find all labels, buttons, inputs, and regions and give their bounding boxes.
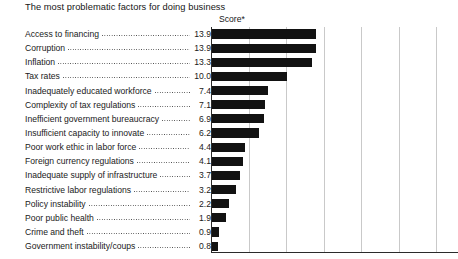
bar-track <box>211 168 458 182</box>
category-label: Inadequately educated workforce <box>25 86 154 96</box>
chart-row: Restrictive labor regulations3.2 <box>0 183 458 197</box>
chart-row: Government instability/coups0.8 <box>0 239 458 253</box>
dot-leader <box>139 143 190 151</box>
bar <box>212 185 236 194</box>
category-label: Government instability/coups <box>25 241 137 251</box>
chart-row: Insufficient capacity to innovate6.2 <box>0 126 458 140</box>
chart-row: Foreign currency regulations4.1 <box>0 154 458 168</box>
dot-leader <box>134 186 190 194</box>
bar <box>212 86 268 95</box>
row-label-block: Inefficient government bureaucracy6.9 <box>25 112 211 126</box>
bar <box>212 100 265 109</box>
value-label: 6.9 <box>191 114 211 124</box>
dot-leader <box>137 157 190 165</box>
row-label-block: Inadequate supply of infrastructure3.7 <box>25 168 211 182</box>
value-label: 3.2 <box>191 185 211 195</box>
bar-track <box>211 211 458 225</box>
score-axis-caption: Score* <box>219 14 245 24</box>
bar-track <box>211 197 458 211</box>
bar <box>212 44 316 53</box>
category-label: Insufficient capacity to innovate <box>25 128 146 138</box>
bar-track <box>211 98 458 112</box>
row-label-block: Policy instability2.2 <box>25 197 211 211</box>
dot-leader <box>102 30 190 38</box>
value-label: 7.1 <box>191 100 211 110</box>
row-label-block: Inflation13.3 <box>25 55 211 69</box>
row-label-block: Insufficient capacity to innovate6.2 <box>25 126 211 140</box>
category-label: Inefficient government bureaucracy <box>25 114 161 124</box>
row-label-block: Poor public health1.9 <box>25 211 211 225</box>
value-label: 6.2 <box>191 128 211 138</box>
dot-leader <box>89 200 190 208</box>
bar <box>212 114 264 123</box>
value-label: 13.9 <box>191 43 211 53</box>
chart-row: Inflation13.3 <box>0 55 458 69</box>
bar-track <box>211 112 458 126</box>
chart-row: Inadequately educated workforce7.4 <box>0 84 458 98</box>
value-label: 7.4 <box>191 86 211 96</box>
dot-leader <box>147 129 190 137</box>
chart-row: Tax rates10.0 <box>0 69 458 83</box>
problematic-factors-chart: The most problematic factors for doing b… <box>0 0 458 259</box>
bar <box>212 143 245 152</box>
bar-track <box>211 84 458 98</box>
value-label: 10.0 <box>191 71 211 81</box>
bar <box>212 242 218 251</box>
chart-row: Access to financing13.9 <box>0 27 458 41</box>
dot-leader <box>87 228 190 236</box>
row-label-block: Foreign currency regulations4.1 <box>25 154 211 168</box>
dot-leader <box>68 44 190 52</box>
row-label-block: Restrictive labor regulations3.2 <box>25 183 211 197</box>
category-label: Inadequate supply of infrastructure <box>25 170 159 180</box>
dot-leader <box>97 214 190 222</box>
bar-track <box>211 154 458 168</box>
dot-leader <box>63 72 190 80</box>
dot-leader <box>58 58 190 66</box>
dot-leader <box>155 87 190 95</box>
category-label: Inflation <box>25 57 57 67</box>
category-label: Poor public health <box>25 213 96 223</box>
chart-row: Poor work ethic in labor force4.4 <box>0 140 458 154</box>
dot-leader <box>138 242 190 250</box>
value-label: 1.9 <box>191 213 211 223</box>
value-label: 4.1 <box>191 156 211 166</box>
category-label: Crime and theft <box>25 227 86 237</box>
value-label: 13.9 <box>191 29 211 39</box>
row-label-block: Corruption13.9 <box>25 41 211 55</box>
chart-row: Corruption13.9 <box>0 41 458 55</box>
bar <box>212 199 229 208</box>
bar-track <box>211 27 458 41</box>
row-label-block: Government instability/coups0.8 <box>25 239 211 253</box>
bar <box>212 213 226 222</box>
bar-track <box>211 140 458 154</box>
dot-leader <box>160 171 190 179</box>
category-label: Tax rates <box>25 71 62 81</box>
row-label-block: Crime and theft0.9 <box>25 225 211 239</box>
bar-track <box>211 55 458 69</box>
category-label: Foreign currency regulations <box>25 156 136 166</box>
category-label: Access to financing <box>25 29 101 39</box>
value-label: 13.3 <box>191 57 211 67</box>
dot-leader <box>138 101 190 109</box>
bar-track <box>211 69 458 83</box>
row-label-block: Inadequately educated workforce7.4 <box>25 84 211 98</box>
value-label: 4.4 <box>191 142 211 152</box>
bar <box>212 29 316 38</box>
row-label-block: Tax rates10.0 <box>25 69 211 83</box>
dot-leader <box>162 115 190 123</box>
category-label: Poor work ethic in labor force <box>25 142 138 152</box>
chart-title: The most problematic factors for doing b… <box>25 2 225 12</box>
bar-track <box>211 239 458 253</box>
chart-row: Policy instability2.2 <box>0 197 458 211</box>
category-label: Corruption <box>25 43 67 53</box>
value-label: 0.9 <box>191 227 211 237</box>
chart-row: Poor public health1.9 <box>0 211 458 225</box>
category-label: Complexity of tax regulations <box>25 100 137 110</box>
row-label-block: Complexity of tax regulations7.1 <box>25 98 211 112</box>
value-label: 2.2 <box>191 199 211 209</box>
chart-row: Inadequate supply of infrastructure3.7 <box>0 168 458 182</box>
bar <box>212 128 259 137</box>
bar <box>212 157 243 166</box>
bar <box>212 58 312 67</box>
bar <box>212 227 219 236</box>
